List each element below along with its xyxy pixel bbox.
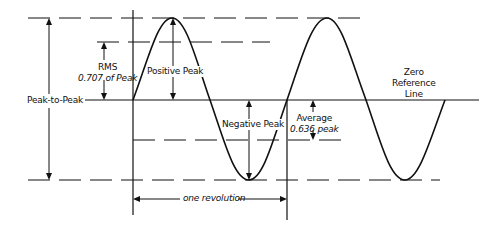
rms-arrowhead-up <box>101 42 107 49</box>
peak-to-peak-arrowhead-down <box>46 173 52 180</box>
zero-reference-line2: Reference <box>392 78 436 89</box>
zero-reference-line1: Zero <box>392 67 436 78</box>
zero-reference-label: Zero Reference Line <box>392 67 436 100</box>
negative-peak-label: Negative Peak <box>222 119 284 130</box>
revolution-arrowhead-left <box>133 196 140 202</box>
one-revolution-label: one revolution <box>183 193 245 204</box>
peak-to-peak-arrowhead-up <box>46 18 52 25</box>
zero-reference-line3: Line <box>392 89 436 100</box>
rms-label-line2: 0.707 of Peak <box>78 73 137 84</box>
rms-label: RMS 0.707 of Peak <box>78 62 137 84</box>
positive-peak-label: Positive Peak <box>147 66 203 77</box>
average-arrowhead-up <box>310 100 316 107</box>
positive-peak-arrowhead-down <box>170 93 176 100</box>
rms-arrowhead-down <box>101 93 107 100</box>
peak-to-peak-label: Peak-to-Peak <box>26 95 84 106</box>
sine-wave-diagram <box>0 0 504 229</box>
revolution-arrowhead-right <box>280 196 287 202</box>
rms-label-line1: RMS <box>78 62 137 73</box>
negative-peak-arrowhead-up <box>246 100 252 107</box>
average-label-line2: 0.636 peak <box>290 124 339 135</box>
average-label-line1: Average <box>290 113 339 124</box>
average-label: Average 0.636 peak <box>290 113 339 135</box>
